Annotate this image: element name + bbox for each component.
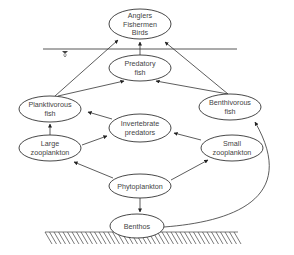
arrow-phytoplankton-to-large_zooplankton — [74, 162, 113, 178]
node-benthivorous-fish: Benthivorousfish — [199, 94, 261, 120]
arrow-benthivorous_fish-to-predatory_fish — [156, 81, 228, 94]
arrow-invertebrate_predators-to-planktivorous_fish — [88, 112, 112, 119]
food-web-diagram: AnglersFishermenBirdsPredatoryfishPlankt… — [0, 0, 294, 255]
node-label: Phytoplankton — [117, 182, 163, 191]
node-label: fish — [224, 107, 235, 116]
node-small-zooplankton: Smallzooplankton — [201, 135, 263, 161]
trophic-nodes: AnglersFishermenBirdsPredatoryfishPlankt… — [19, 9, 263, 238]
arrow-large_zooplankton-to-invertebrate_predators — [82, 136, 107, 145]
node-label: predators — [125, 128, 156, 137]
node-label: Birds — [132, 28, 149, 37]
node-label: fish — [44, 109, 55, 118]
node-invertebrate-predators: Invertebratepredators — [109, 114, 171, 142]
node-predatory-fish: Predatoryfish — [109, 55, 171, 81]
water-level-icon — [62, 51, 68, 57]
arrow-benthivorous_fish-to-anglers — [165, 42, 228, 94]
node-anglers: AnglersFishermenBirds — [109, 9, 171, 39]
node-large-zooplankton: Largezooplankton — [19, 135, 81, 161]
node-label: Benthos — [124, 222, 151, 231]
arrow-planktivorous_fish-to-predatory_fish — [58, 81, 124, 96]
node-label: fish — [134, 68, 145, 77]
arrow-small_zooplankton-to-invertebrate_predators — [174, 133, 201, 140]
arrow-phytoplankton-to-small_zooplankton — [171, 160, 208, 180]
node-label: zooplankton — [31, 148, 70, 157]
node-planktivorous-fish: Planktivorousfish — [19, 96, 81, 122]
node-label: zooplankton — [213, 148, 252, 157]
node-benthos: Benthos — [110, 214, 164, 238]
node-phytoplankton: Phytoplankton — [109, 174, 171, 198]
